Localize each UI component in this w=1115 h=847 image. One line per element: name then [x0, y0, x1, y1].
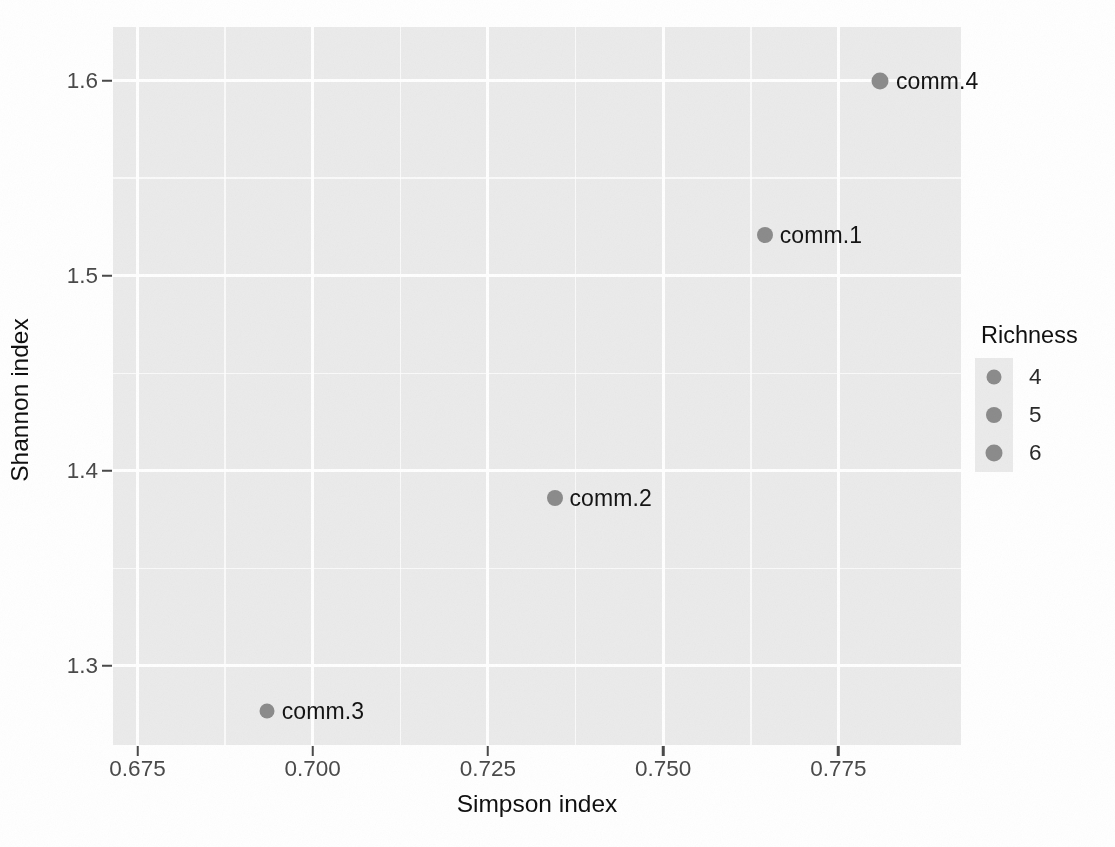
legend-entry[interactable]: 4 [975, 358, 1107, 396]
scatter-point[interactable] [872, 72, 889, 89]
gridline-major-horizontal [113, 274, 961, 277]
x-axis-tick-mark [311, 746, 314, 756]
gridline-major-horizontal [113, 469, 961, 472]
legend-point-icon [987, 370, 1002, 385]
y-axis-tick-mark [102, 665, 112, 668]
gridline-minor-horizontal [113, 373, 961, 375]
legend-entry[interactable]: 6 [975, 434, 1107, 472]
x-axis-tick-mark [837, 746, 840, 756]
scatter-point-label: comm.3 [282, 697, 364, 724]
gridline-minor-horizontal [113, 177, 961, 179]
scatter-point-label: comm.1 [780, 221, 862, 248]
gridline-minor-horizontal [113, 568, 961, 570]
legend-entries: 456 [975, 358, 1107, 472]
scatter-point[interactable] [757, 227, 773, 243]
gridline-minor-vertical [224, 27, 226, 745]
y-axis-tick-mark [102, 79, 112, 82]
x-axis-tick-label: 0.750 [635, 756, 691, 782]
gridline-major-vertical [837, 27, 840, 745]
legend-key-swatch [975, 396, 1013, 434]
y-axis-tick-mark [102, 275, 112, 278]
legend: Richness 456 [975, 322, 1107, 472]
gridline-major-horizontal [113, 79, 961, 82]
scatter-point[interactable] [547, 490, 563, 506]
x-axis-tick-label: 0.725 [460, 756, 516, 782]
gridline-major-vertical [662, 27, 665, 745]
legend-entry-label: 6 [1029, 440, 1042, 466]
gridline-minor-vertical [750, 27, 752, 745]
legend-point-icon [986, 445, 1003, 462]
x-axis-tick-label: 0.675 [109, 756, 165, 782]
gridline-major-vertical [486, 27, 489, 745]
y-axis-tick-mark [102, 470, 112, 473]
x-axis-tick-mark [662, 746, 665, 756]
x-axis-tick-mark [136, 746, 139, 756]
legend-key-swatch [975, 358, 1013, 396]
legend-entry-label: 5 [1029, 402, 1042, 428]
x-axis-title: Simpson index [113, 790, 961, 818]
scatter-point-label: comm.2 [570, 485, 652, 512]
gridline-major-horizontal [113, 664, 961, 667]
gridline-major-vertical [136, 27, 139, 745]
scatter-point-label: comm.4 [896, 67, 978, 94]
gridline-major-vertical [311, 27, 314, 745]
legend-key-swatch [975, 434, 1013, 472]
legend-entry-label: 4 [1029, 364, 1042, 390]
gridline-minor-vertical [575, 27, 577, 745]
legend-entry[interactable]: 5 [975, 396, 1107, 434]
x-axis-tick-mark [487, 746, 490, 756]
plot-panel [113, 27, 961, 745]
gridline-minor-vertical [400, 27, 402, 745]
y-axis-title: Shannon index [6, 40, 34, 760]
x-axis-tick-label: 0.700 [285, 756, 341, 782]
scatter-point[interactable] [260, 703, 275, 718]
legend-point-icon [986, 407, 1002, 423]
x-axis-tick-label: 0.775 [810, 756, 866, 782]
legend-title: Richness [981, 322, 1107, 349]
